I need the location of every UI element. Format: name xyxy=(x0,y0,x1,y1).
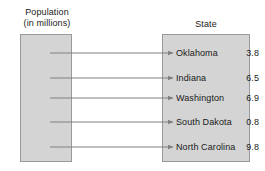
population-item-3: 6.9 xyxy=(246,93,259,103)
left-column-header: Population (in millions) xyxy=(12,7,82,29)
population-item-5: 9.8 xyxy=(246,142,259,152)
state-item-4: South Dakota xyxy=(176,117,232,127)
population-set-box xyxy=(20,34,72,162)
left-column-header-line1: Population xyxy=(25,7,69,17)
population-item-4: 0.8 xyxy=(246,117,259,127)
state-item-3: Washington xyxy=(176,93,224,103)
right-column-header-label: State xyxy=(195,19,217,29)
population-item-2: 6.5 xyxy=(246,73,259,83)
right-column-header: State xyxy=(162,19,250,30)
state-item-2: Indiana xyxy=(176,73,206,83)
left-column-header-line2: (in millions) xyxy=(12,18,82,29)
state-item-5: North Carolina xyxy=(176,142,235,152)
state-item-1: Oklahoma xyxy=(176,48,218,58)
population-item-1: 3.8 xyxy=(246,48,259,58)
mapping-diagram: Population (in millions) State 3.8 6.5 6… xyxy=(0,0,265,171)
